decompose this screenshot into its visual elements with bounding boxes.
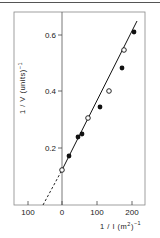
y-tick-label: 0.2 — [45, 144, 57, 153]
x-tick-label: 100 — [90, 208, 104, 217]
y-axis-label: 1 / V (units)−1 — [17, 62, 27, 114]
scatter-chart: 0.2 0.4 0.6 100 0 100 200 1 / V (units)−… — [0, 0, 160, 238]
y-tick-label: 0.4 — [45, 87, 57, 96]
x-axis-label: 1 / I (m2)−1 — [100, 220, 141, 231]
plot-frame — [14, 12, 145, 205]
x-tick-label: 100 — [21, 208, 35, 217]
x-tick-label: 0 — [60, 208, 65, 217]
fit-line — [62, 21, 137, 170]
x-tick-label: 200 — [125, 208, 139, 217]
fit-line-extrapolation — [43, 170, 62, 205]
y-tick-label: 0.6 — [45, 31, 57, 40]
x-ticks: 100 0 100 200 — [21, 201, 139, 217]
y-ticks: 0.2 0.4 0.6 — [45, 31, 62, 153]
series-open — [60, 48, 127, 173]
